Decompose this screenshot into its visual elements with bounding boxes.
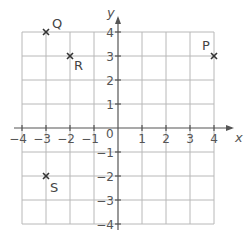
x-tick-label: −4 — [9, 132, 27, 146]
x-tick-label: 4 — [210, 132, 218, 146]
y-tick-label: −1 — [96, 146, 114, 160]
x-tick-label: 2 — [162, 132, 170, 146]
x-tick-label: 3 — [186, 132, 194, 146]
y-tick-label: 2 — [106, 74, 114, 88]
x-tick-label: −1 — [81, 132, 99, 146]
coordinate-grid: x y 0 −4−3−2−112344321−1−2−3−4 PQRS — [0, 0, 249, 238]
origin-label: 0 — [106, 127, 114, 141]
y-tick-label: 1 — [106, 98, 114, 112]
point-label: S — [50, 180, 58, 195]
plotted-points: PQRS — [43, 16, 217, 195]
y-tick-label: −3 — [96, 194, 114, 208]
point-label: P — [202, 38, 210, 53]
y-tick-label: −4 — [96, 218, 114, 232]
x-axis-label: x — [234, 130, 243, 145]
point-label: R — [74, 58, 83, 73]
y-tick-label: 3 — [106, 50, 114, 64]
x-tick-label: 1 — [138, 132, 146, 146]
y-tick-label: −2 — [96, 170, 114, 184]
y-axis-label: y — [106, 5, 115, 20]
point-label: Q — [52, 16, 62, 31]
y-tick-label: 4 — [106, 26, 114, 40]
x-axis-arrow-icon — [226, 125, 234, 131]
y-axis-arrow-icon — [115, 16, 121, 24]
x-tick-label: −2 — [57, 132, 75, 146]
x-tick-label: −3 — [33, 132, 51, 146]
